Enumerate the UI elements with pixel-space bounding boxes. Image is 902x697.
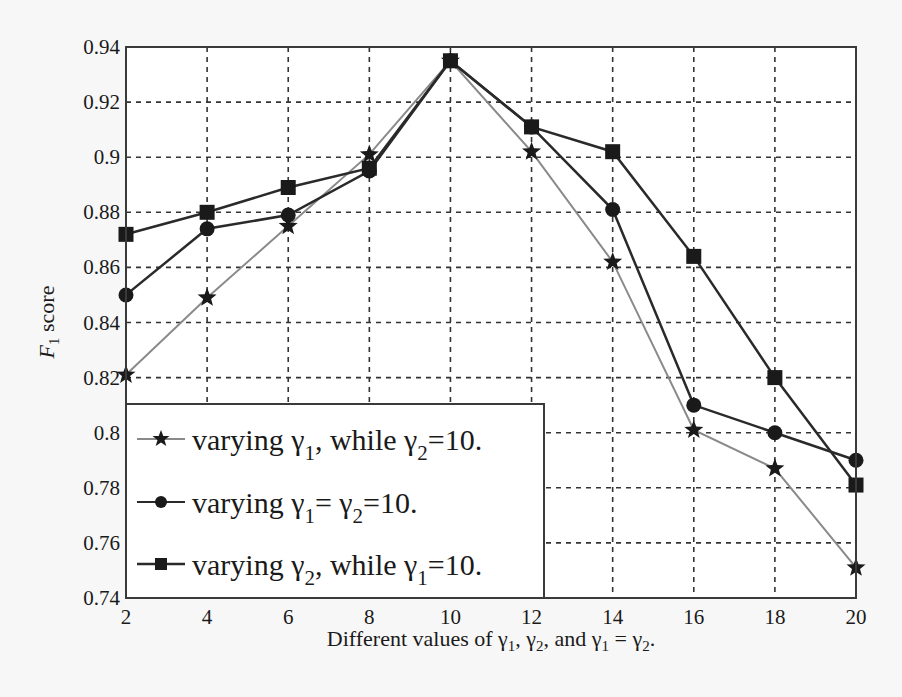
circle-marker-icon <box>605 202 620 217</box>
x-tick-label: 20 <box>846 605 867 629</box>
square-marker-icon <box>524 119 539 134</box>
y-tick-label: 0.76 <box>83 531 120 555</box>
circle-marker-icon <box>686 398 701 413</box>
y-tick-label: 0.92 <box>83 90 120 114</box>
y-tick-label: 0.82 <box>83 366 120 390</box>
circle-marker-icon <box>281 208 296 223</box>
x-tick-label: 2 <box>121 605 132 629</box>
x-tick-label: 6 <box>283 605 294 629</box>
y-tick-label: 0.84 <box>83 311 120 335</box>
square-marker-icon <box>767 370 782 385</box>
y-tick-label: 0.9 <box>94 145 120 169</box>
y-tick-label: 0.74 <box>83 586 120 610</box>
square-marker-icon <box>155 558 167 570</box>
f1-score-line-chart: 0.740.760.780.80.820.840.860.880.90.920.… <box>0 0 902 697</box>
square-marker-icon <box>200 205 215 220</box>
x-tick-label: 16 <box>683 605 704 629</box>
square-marker-icon <box>686 249 701 264</box>
y-tick-label: 0.8 <box>94 421 120 445</box>
square-marker-icon <box>281 180 296 195</box>
y-axis-title: F1 score <box>34 286 62 360</box>
square-marker-icon <box>362 161 377 176</box>
y-tick-label: 0.94 <box>83 35 120 59</box>
circle-marker-icon <box>200 221 215 236</box>
legend: varying γ1, while γ2=10. varying γ1= γ2=… <box>126 404 544 598</box>
circle-marker-icon <box>155 496 167 508</box>
square-marker-icon <box>443 53 458 68</box>
circle-marker-icon <box>767 425 782 440</box>
x-tick-label: 18 <box>764 605 785 629</box>
square-marker-icon <box>605 144 620 159</box>
y-tick-label: 0.88 <box>83 200 120 224</box>
x-axis-title: Different values of γ1, γ2, and γ1 = γ2. <box>327 626 655 654</box>
y-tick-label: 0.86 <box>83 255 120 279</box>
x-tick-label: 4 <box>202 605 213 629</box>
y-axis-ticks: 0.740.760.780.80.820.840.860.880.90.920.… <box>83 35 120 610</box>
y-tick-label: 0.78 <box>83 476 120 500</box>
